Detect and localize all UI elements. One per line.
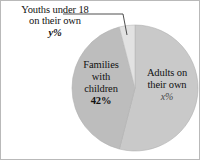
adults-percent: x% <box>137 91 197 102</box>
slice-label-adults: Adults on their own x% <box>137 67 197 102</box>
slice-label-families: Families with children 42% <box>73 59 129 107</box>
families-line-1: Families <box>73 59 129 71</box>
callout-percent: y% <box>3 27 107 38</box>
adults-line-1: Adults on <box>137 67 197 79</box>
callout-youths-label: Youths under 18 on their own y% <box>3 4 107 38</box>
families-line-2: with <box>73 71 129 83</box>
pie-chart-figure: Youths under 18 on their own y% Families… <box>0 0 200 160</box>
families-percent: 42% <box>73 95 129 107</box>
families-line-3: children <box>73 83 129 95</box>
callout-line-1: Youths under 18 <box>3 4 107 15</box>
adults-line-2: their own <box>137 79 197 91</box>
callout-line-2: on their own <box>3 15 107 26</box>
